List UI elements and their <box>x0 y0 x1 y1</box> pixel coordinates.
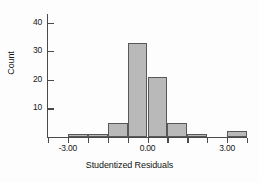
y-tick-label: 10 <box>0 102 42 112</box>
x-tick-label: 3.00 <box>203 143 251 153</box>
histogram-figure: 10203040 -3.000.003.00 Count Studentized… <box>0 0 259 182</box>
histogram-bar <box>187 134 207 137</box>
y-tick-label: 40 <box>0 17 42 27</box>
histogram-bar <box>167 123 187 137</box>
histogram-bar <box>148 77 168 137</box>
histogram-bar <box>227 131 247 137</box>
x-tick-label: 0.00 <box>124 143 172 153</box>
histogram-bar <box>88 134 108 137</box>
x-tick-label: -3.00 <box>44 143 92 153</box>
y-axis-title: Count <box>6 33 16 93</box>
histogram-bar <box>68 134 88 137</box>
x-tick-mark <box>187 138 188 143</box>
histogram-bar <box>108 123 128 137</box>
x-tick-mark <box>108 138 109 143</box>
histogram-bar <box>128 43 148 137</box>
x-axis-title: Studentized Residuals <box>0 160 259 170</box>
histogram-bars <box>48 14 247 137</box>
